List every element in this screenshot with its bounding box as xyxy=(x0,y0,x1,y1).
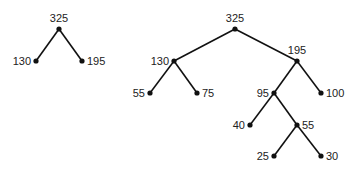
tree-edge xyxy=(36,29,59,61)
node-label: 40 xyxy=(233,119,245,131)
node-label: 25 xyxy=(257,150,269,162)
node-label: 100 xyxy=(326,87,344,99)
tree-node-dot xyxy=(294,58,299,63)
node-label: 30 xyxy=(326,150,338,162)
node-label: 325 xyxy=(226,12,244,24)
tree-node-dot xyxy=(194,90,199,95)
tree-edges xyxy=(36,29,321,156)
tree-node-dot xyxy=(318,90,323,95)
node-label: 195 xyxy=(288,44,306,56)
tree-node-dot xyxy=(247,122,252,127)
node-label: 325 xyxy=(50,12,68,24)
tree-node-dot xyxy=(147,90,152,95)
tree-node-dot xyxy=(79,58,84,63)
node-label: 130 xyxy=(151,55,169,67)
tree-node-dot xyxy=(318,153,323,158)
tree-edge xyxy=(274,125,297,156)
node-label: 75 xyxy=(202,87,214,99)
node-label: 195 xyxy=(87,55,105,67)
node-label: 55 xyxy=(302,119,314,131)
tree-node-dot xyxy=(271,90,276,95)
tree-node-dot xyxy=(56,26,61,31)
tree-edge xyxy=(174,61,197,93)
tree-edge xyxy=(297,61,321,93)
node-label: 95 xyxy=(257,87,269,99)
node-label: 55 xyxy=(133,87,145,99)
tree-nodes xyxy=(33,26,323,158)
tree-node-dot xyxy=(232,26,237,31)
tree-edge xyxy=(274,93,297,125)
tree-edge xyxy=(59,29,82,61)
tree-node-dot xyxy=(271,153,276,158)
tree-node-dot xyxy=(171,58,176,63)
tree-node-dot xyxy=(33,58,38,63)
tree-node-dot xyxy=(294,122,299,127)
tree-edge xyxy=(274,61,297,93)
node-label: 130 xyxy=(13,55,31,67)
tree-edge xyxy=(174,29,235,61)
tree-diagram: 32513019532513019555759510040552530 xyxy=(0,0,363,169)
